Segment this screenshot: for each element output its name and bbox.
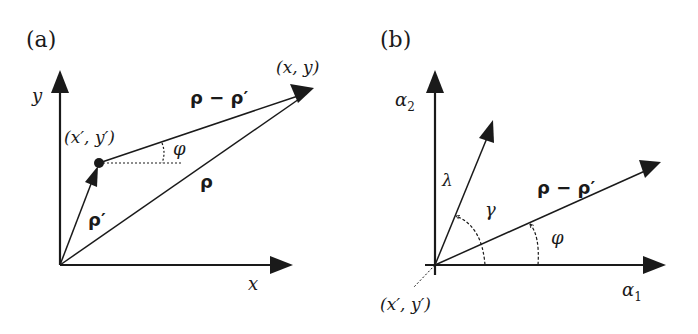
y-axis-arrow-icon — [51, 70, 69, 93]
panel-a: (a) y x ρ′ ρ ρ − ρ′ φ (x′, y — [26, 27, 319, 294]
source-point-dot — [94, 158, 104, 168]
panel-b: (b) α2 α1 (x′, y′) λ ρ − ρ′ γ — [380, 27, 666, 314]
y-axis-label: y — [31, 85, 43, 106]
lambda-arrow-icon — [479, 120, 494, 143]
rho-diff-arrow-icon — [639, 160, 661, 178]
gamma-label: γ — [485, 199, 496, 220]
phi-label: φ — [173, 138, 186, 159]
alpha2-axis-label: α2 — [395, 89, 415, 114]
alpha1-axis-label: α1 — [622, 279, 642, 304]
source-point-label: (x′, y′) — [64, 127, 115, 147]
origin-point-label: (x′, y′) — [380, 294, 431, 314]
target-point-label: (x, y) — [276, 57, 319, 77]
phi-angle-arc-b — [530, 224, 538, 265]
rho-label: ρ — [200, 171, 213, 192]
target-arrow-icon — [290, 84, 314, 103]
y-axis — [51, 70, 69, 265]
phi-label-b: φ — [551, 227, 564, 248]
alpha1-axis — [425, 256, 666, 274]
panel-a-label: (a) — [26, 27, 56, 52]
lambda-label: λ — [441, 170, 453, 190]
origin-leader-line — [414, 265, 435, 287]
rho-prime-arrow-icon — [85, 166, 98, 187]
panel-b-label: (b) — [380, 27, 411, 52]
x-axis-label: x — [248, 273, 258, 294]
alpha1-axis-arrow-icon — [643, 256, 666, 274]
diagram-canvas: (a) y x ρ′ ρ ρ − ρ′ φ (x′, y — [0, 0, 698, 334]
x-axis-arrow-icon — [270, 256, 293, 274]
gamma-angle-arc — [456, 216, 485, 265]
rho-diff-label-b: ρ − ρ′ — [537, 177, 595, 198]
alpha2-axis-arrow-icon — [426, 70, 444, 93]
x-axis — [60, 256, 293, 274]
phi-angle-arc — [162, 143, 164, 163]
rho-prime-label: ρ′ — [88, 209, 106, 230]
vector-rho-diff-b — [435, 160, 661, 265]
rho-diff-label: ρ − ρ′ — [190, 87, 248, 108]
